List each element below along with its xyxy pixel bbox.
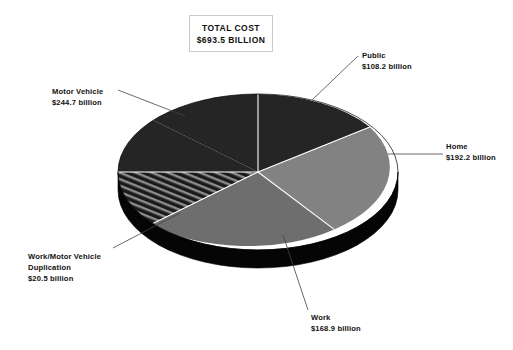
callout-home-category: Home bbox=[446, 141, 496, 152]
callout-motor-vehicle-value: $244.7 billion bbox=[52, 97, 103, 108]
callout-duplication: Work/Motor Vehicle Duplication $20.5 bil… bbox=[28, 251, 101, 284]
pie-chart-figure: TOTAL COST $693.5 BILLION Public $108.2 … bbox=[0, 0, 513, 350]
callout-duplication-value: $20.5 billion bbox=[28, 273, 101, 284]
callout-motor-vehicle: Motor Vehicle $244.7 billion bbox=[52, 86, 103, 108]
callout-home: Home $192.2 billion bbox=[446, 141, 496, 163]
callout-public-value: $108.2 billion bbox=[362, 61, 412, 72]
callout-public: Public $108.2 billion bbox=[362, 50, 412, 72]
callout-duplication-category-line2: Duplication bbox=[28, 262, 101, 273]
pie-slices bbox=[114, 92, 390, 246]
callout-public-category: Public bbox=[362, 50, 412, 61]
callout-home-value: $192.2 billion bbox=[446, 152, 496, 163]
callout-motor-vehicle-category: Motor Vehicle bbox=[52, 86, 103, 97]
total-cost-title-box: TOTAL COST $693.5 BILLION bbox=[189, 15, 273, 52]
callout-work: Work $168.9 billion bbox=[311, 312, 361, 334]
callout-duplication-category: Work/Motor Vehicle bbox=[28, 251, 101, 262]
total-cost-label: TOTAL COST bbox=[202, 22, 260, 34]
pie-chart-graphic bbox=[0, 0, 513, 350]
leader-line-motor bbox=[118, 90, 185, 116]
callout-work-category: Work bbox=[311, 312, 361, 323]
callout-work-value: $168.9 billion bbox=[311, 323, 361, 334]
leader-line-public bbox=[312, 56, 358, 100]
total-cost-value: $693.5 BILLION bbox=[197, 34, 266, 46]
